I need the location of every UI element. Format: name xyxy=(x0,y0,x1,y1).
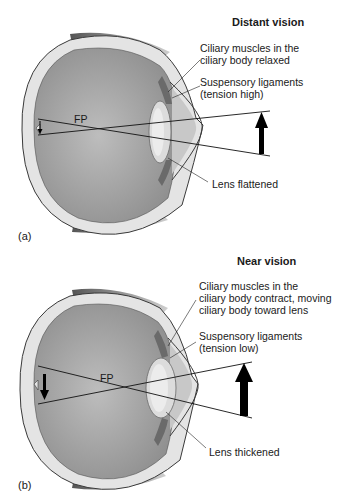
label-suspensory-line2: (tension low) xyxy=(199,342,259,354)
focal-point-label: FP xyxy=(74,113,87,125)
label-ciliary-line2: ciliary body contract, moving xyxy=(199,292,331,304)
label-lens: Lens thickened xyxy=(209,446,280,458)
label-ciliary-line3: ciliary body toward lens xyxy=(199,304,308,316)
object-arrow-up-icon xyxy=(235,363,253,382)
label-suspensory-line1: Suspensory ligaments xyxy=(199,330,302,342)
panel-near-vision: Near vision Ciliary muscles in the cilia… xyxy=(0,250,344,499)
panel-distant-vision: Distant vision Ciliary muscles in the ci… xyxy=(0,0,344,250)
object-arrow-up-icon xyxy=(255,112,268,128)
label-suspensory-line2: (tension high) xyxy=(200,88,264,100)
label-suspensory-line1: Suspensory ligaments xyxy=(200,76,303,88)
panel-title: Near vision xyxy=(237,255,296,267)
label-lens: Lens flattened xyxy=(212,178,278,190)
panel-title: Distant vision xyxy=(232,16,304,28)
part-label: (a) xyxy=(18,230,31,242)
label-ciliary-line2: ciliary body relaxed xyxy=(200,54,290,66)
eye-diagram-distant xyxy=(0,0,344,250)
label-ciliary-line1: Ciliary muscles in the xyxy=(200,42,299,54)
focal-point-label: FP xyxy=(100,372,113,384)
part-label: (b) xyxy=(18,479,31,491)
label-ciliary-line1: Ciliary muscles in the xyxy=(199,280,298,292)
